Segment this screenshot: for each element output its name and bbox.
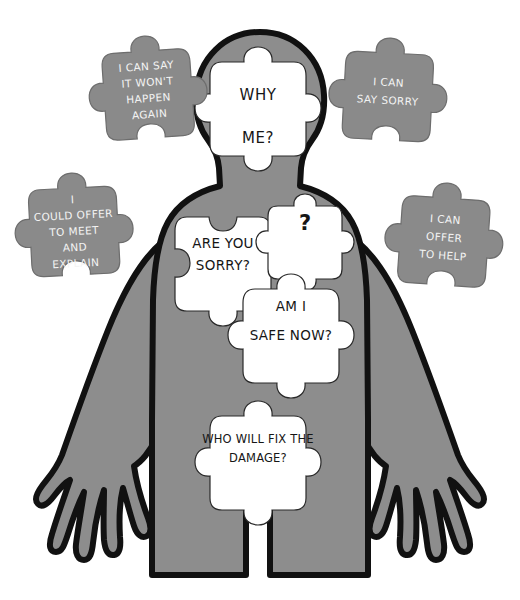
mid-right-line-2: OFFER — [426, 230, 463, 245]
head-piece-line-2: ME? — [242, 129, 274, 147]
abdomen-line-2: DAMAGE? — [229, 451, 287, 465]
chest-question-piece-shape — [256, 194, 354, 291]
mid-right-line-1: I CAN — [430, 212, 462, 226]
top-left-line-4: AGAIN — [132, 107, 168, 121]
chest-right-line-2: SAFE NOW? — [250, 327, 333, 343]
mid-left-line-4: AND — [62, 240, 87, 253]
mid-left-line-5: EXPLAIN — [52, 256, 100, 270]
chest-question-mark: ? — [299, 211, 311, 235]
head-piece-line-1: WHY — [239, 86, 276, 104]
chest-right-line-1: AM I — [276, 298, 306, 314]
head-piece-shape — [195, 47, 321, 171]
mid-left-line-1: I — [70, 193, 74, 205]
abdomen-piece: WHO WILL FIX THE DAMAGE? — [195, 401, 321, 525]
abdomen-line-1: WHO WILL FIX THE — [202, 432, 314, 446]
head-piece: WHY ME? — [195, 47, 321, 171]
illustration-canvas: WHY ME? ARE YOU SORRY? ? AM I SAFE NOW? … — [0, 0, 520, 600]
chest-left-line-1: ARE YOU — [192, 235, 254, 251]
chest-right-piece: AM I SAFE NOW? — [228, 274, 354, 398]
chest-left-line-2: SORRY? — [196, 257, 250, 273]
top-right-line-1: I CAN — [373, 75, 404, 89]
chest-question-piece: ? — [256, 194, 354, 291]
